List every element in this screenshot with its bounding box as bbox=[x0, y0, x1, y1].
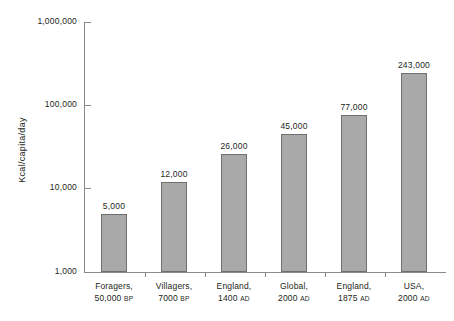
bar-value-foragers: 5,000 bbox=[84, 202, 144, 211]
bar-foragers bbox=[101, 214, 127, 272]
category-era: AD bbox=[240, 295, 250, 302]
category-year: 2000 bbox=[278, 293, 298, 303]
y-tick-10000: 10,000 bbox=[0, 188, 84, 189]
bar-villagers bbox=[161, 182, 187, 272]
bar-usa-2000 bbox=[401, 73, 427, 272]
category-year: 2000 bbox=[398, 293, 418, 303]
category-line1: England, bbox=[217, 281, 252, 291]
y-axis-line bbox=[84, 22, 85, 272]
category-era: AD bbox=[300, 295, 310, 302]
y-axis-title: Kcal/capita/day bbox=[17, 117, 27, 183]
bar-england-1400 bbox=[221, 154, 247, 272]
category-era: AD bbox=[420, 295, 430, 302]
category-line1: Foragers, bbox=[95, 281, 133, 291]
y-tick-label-1000: 1,000 bbox=[19, 267, 77, 276]
bar-value-usa-2000: 243,000 bbox=[384, 61, 444, 70]
bar-chart-figure: Kcal/capita/day 1,000,000 100,000 10,000… bbox=[0, 0, 454, 321]
bar-value-england-1400: 26,000 bbox=[204, 142, 264, 151]
y-tick-1000: 1,000 bbox=[0, 272, 84, 273]
category-label-foragers: Foragers, 50,000 BP bbox=[82, 281, 146, 304]
x-tick-3 bbox=[265, 272, 266, 277]
category-label-england-1875: England, 1875 AD bbox=[322, 281, 386, 304]
x-tick-1 bbox=[145, 272, 146, 277]
bar-global-2000 bbox=[281, 134, 307, 272]
y-tick-label-10000: 10,000 bbox=[19, 183, 77, 192]
x-tick-4 bbox=[325, 272, 326, 277]
category-label-usa-2000: USA, 2000 AD bbox=[382, 281, 446, 304]
y-tick-label-100000: 100,000 bbox=[19, 100, 77, 109]
category-year: 7000 bbox=[158, 293, 178, 303]
x-tick-5 bbox=[385, 272, 386, 277]
category-label-global-2000: Global, 2000 AD bbox=[262, 281, 326, 304]
category-line1: Villagers, bbox=[156, 281, 192, 291]
category-label-england-1400: England, 1400 AD bbox=[202, 281, 266, 304]
bar-value-global-2000: 45,000 bbox=[264, 122, 324, 131]
category-era: BP bbox=[124, 295, 133, 302]
category-label-villagers: Villagers, 7000 BP bbox=[142, 281, 206, 304]
y-tick-1000000: 1,000,000 bbox=[0, 22, 84, 23]
category-year: 1400 bbox=[218, 293, 238, 303]
bar-value-villagers: 12,000 bbox=[144, 170, 204, 179]
y-tick-label-1000000: 1,000,000 bbox=[19, 17, 77, 26]
category-line1: USA, bbox=[404, 281, 424, 291]
category-year: 1875 bbox=[338, 293, 358, 303]
category-year: 50,000 bbox=[95, 293, 122, 303]
category-line1: England, bbox=[337, 281, 372, 291]
category-era: AD bbox=[360, 295, 370, 302]
bar-value-england-1875: 77,000 bbox=[324, 103, 384, 112]
x-tick-2 bbox=[205, 272, 206, 277]
y-tick-100000: 100,000 bbox=[0, 105, 84, 106]
category-era: BP bbox=[180, 295, 189, 302]
bar-england-1875 bbox=[341, 115, 367, 272]
category-line1: Global, bbox=[280, 281, 308, 291]
